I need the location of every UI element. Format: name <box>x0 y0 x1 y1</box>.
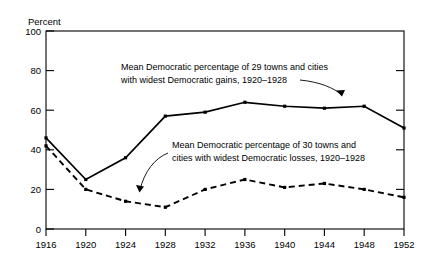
x-tick-label-1928: 1928 <box>155 239 176 250</box>
data-point <box>124 200 127 203</box>
y-tick-label-80: 80 <box>30 65 41 76</box>
y-axis-tick-labels: 100 80 60 40 20 0 <box>25 26 41 235</box>
data-point <box>84 188 87 191</box>
data-point <box>44 144 47 147</box>
annotation-losses-line1: Mean Democratic percentage of 30 towns a… <box>172 140 356 150</box>
annotation-gains-line1: Mean Democratic percentage of 29 towns a… <box>121 62 329 72</box>
y-tick-label-60: 60 <box>30 105 41 116</box>
x-tick-label-1920: 1920 <box>75 239 96 250</box>
x-tick-label-1940: 1940 <box>274 239 295 250</box>
x-tick-label-1952: 1952 <box>393 239 414 250</box>
x-tick-label-1932: 1932 <box>195 239 216 250</box>
data-point <box>402 126 405 129</box>
x-tick-label-1944: 1944 <box>314 239 335 250</box>
data-point <box>164 206 167 209</box>
annotation-gains-line2: with widest Democratic gains, 1920–1928 <box>120 75 287 85</box>
line-chart: Percent 100 80 60 40 20 0 <box>0 0 426 257</box>
annotation-losses-line2: cities with widest Democratic losses, 19… <box>172 153 365 163</box>
y-tick-label-0: 0 <box>36 224 41 235</box>
data-point <box>243 178 246 181</box>
annotation-gains-leader <box>300 80 342 95</box>
x-axis-tick-labels: 1916 1920 1924 1928 1932 1936 1940 1944 … <box>35 239 414 250</box>
data-point <box>283 186 286 189</box>
data-point <box>283 105 286 108</box>
data-point <box>402 196 405 199</box>
data-point <box>44 136 47 139</box>
data-point <box>84 178 87 181</box>
data-point <box>204 188 207 191</box>
y-tick-label-40: 40 <box>30 144 41 155</box>
data-point <box>124 156 127 159</box>
plot-frame <box>46 31 404 229</box>
annotation-losses-arrowhead <box>136 185 144 193</box>
y-tick-label-100: 100 <box>25 26 41 37</box>
annotation-losses-leader <box>140 153 168 190</box>
x-tick-label-1916: 1916 <box>35 239 56 250</box>
y-axis-ticks <box>46 31 404 229</box>
annotation-gains: Mean Democratic percentage of 29 towns a… <box>120 62 345 97</box>
y-tick-label-20: 20 <box>30 184 41 195</box>
x-tick-label-1924: 1924 <box>115 239 136 250</box>
x-axis-ticks <box>46 229 404 236</box>
x-tick-label-1936: 1936 <box>234 239 255 250</box>
data-point <box>363 188 366 191</box>
chart-container: Percent 100 80 60 40 20 0 <box>0 0 426 257</box>
data-point <box>323 182 326 185</box>
annotation-gains-arrowhead <box>336 90 345 97</box>
data-point <box>204 111 207 114</box>
data-point <box>164 115 167 118</box>
data-point <box>363 105 366 108</box>
x-tick-label-1948: 1948 <box>354 239 375 250</box>
data-point <box>323 107 326 110</box>
data-point <box>243 101 246 104</box>
